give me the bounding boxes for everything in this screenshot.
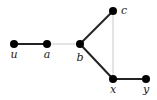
graph-diagram: u a b c x y bbox=[0, 0, 157, 100]
label-x: x bbox=[110, 83, 117, 96]
node-a bbox=[43, 40, 51, 48]
edge-b-x bbox=[80, 44, 113, 79]
edge-b-c bbox=[80, 11, 113, 44]
node-b bbox=[76, 40, 84, 48]
labels: u a b c x y bbox=[10, 4, 149, 96]
label-b: b bbox=[76, 51, 83, 64]
label-a: a bbox=[44, 48, 51, 61]
node-u bbox=[10, 40, 18, 48]
label-u: u bbox=[10, 48, 17, 61]
node-x bbox=[109, 75, 117, 83]
node-c bbox=[109, 7, 117, 15]
label-c: c bbox=[121, 4, 127, 17]
label-y: y bbox=[142, 83, 150, 96]
node-y bbox=[142, 75, 150, 83]
